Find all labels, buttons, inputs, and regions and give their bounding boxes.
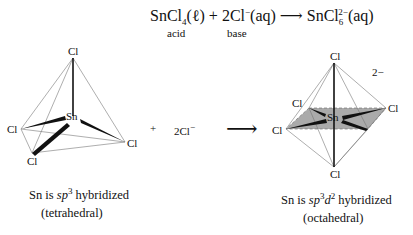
oct-cl-bottom: Cl [330,168,340,180]
oct-charge: 2− [372,66,384,78]
oct-cl-right: Cl [388,102,398,114]
oct-cl-left: Cl [272,124,282,136]
middle-reagent: 2Cl− [174,122,195,137]
tet-caption-line2: (tetrahedral) [41,206,103,221]
oct-sn: Sn [327,111,339,123]
oct-cl-back-left: Cl [292,97,302,109]
bond-right-wedge [80,119,125,142]
oct-caption-line1: Sn is sp3d2 hybridized [281,191,392,208]
oct-cl-top: Cl [330,50,340,62]
tet-cl-right: Cl [127,137,137,149]
middle-plus: + [150,122,156,134]
tet-caption-line1: Sn is sp3 hybridized [29,186,129,203]
tet-cl-front: Cl [27,155,37,167]
tet-cl-top: Cl [68,45,78,57]
tet-cl-left: Cl [7,123,17,135]
middle-arrow: ⟶ [226,116,258,142]
tet-sn: Sn [66,110,78,122]
oct-caption-line2: (octahedral) [303,211,363,226]
